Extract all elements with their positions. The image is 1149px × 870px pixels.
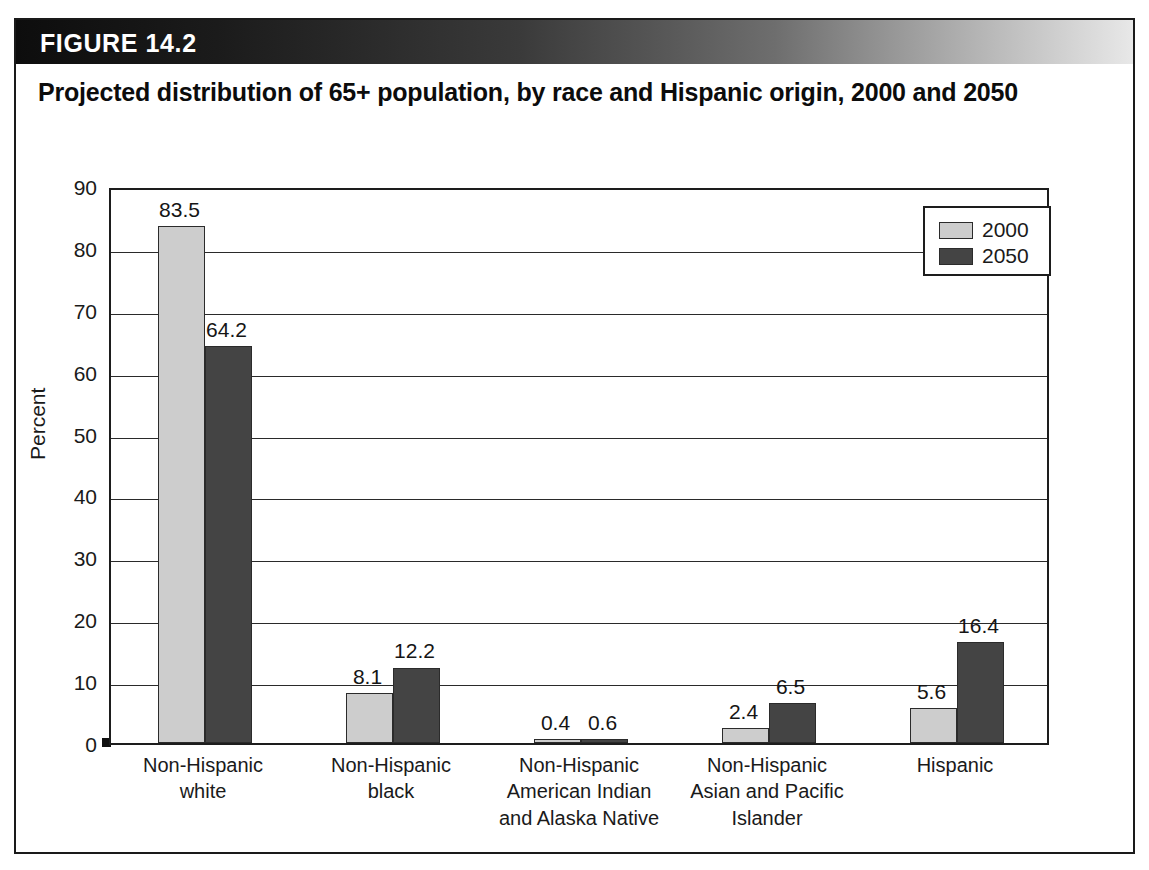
- gridline: [111, 252, 1047, 253]
- bar-value-label: 2.4: [729, 700, 758, 724]
- y-tick-label: 50: [37, 424, 97, 448]
- bar-value-label: 83.5: [159, 198, 200, 222]
- bar-value-label: 12.2: [394, 639, 435, 663]
- bar-2000-2: [346, 693, 393, 743]
- y-tick-label: 80: [37, 238, 97, 262]
- bar-2000-3: [534, 739, 581, 743]
- y-tick-label: 0: [37, 733, 97, 757]
- bar-2050-3: [581, 739, 628, 743]
- category-label-5: Hispanic: [851, 752, 1059, 778]
- y-tick-label: 60: [37, 362, 97, 386]
- category-label-4: Non-Hispanic Asian and Pacific Islander: [663, 752, 871, 831]
- bar-2050-1: [205, 346, 252, 743]
- category-label-1: Non-Hispanic white: [99, 752, 307, 805]
- y-tick-label: 30: [37, 547, 97, 571]
- bar-2000-5: [910, 708, 957, 743]
- legend-label-2050: 2050: [982, 244, 1029, 268]
- legend-swatch-2000: [939, 222, 973, 239]
- bar-value-label: 6.5: [776, 675, 805, 699]
- gridline: [111, 314, 1047, 315]
- bar-2050-2: [393, 668, 440, 744]
- plot-area: 2000 2050: [109, 188, 1049, 745]
- bar-value-label: 8.1: [353, 665, 382, 689]
- bar-2000-4: [722, 728, 769, 743]
- category-label-3: Non-Hispanic American Indian and Alaska …: [475, 752, 683, 831]
- figure-header-band: FIGURE 14.2: [16, 20, 1133, 64]
- bar-value-label: 5.6: [917, 680, 946, 704]
- bar-2050-4: [769, 703, 816, 743]
- figure-title: Projected distribution of 65+ population…: [38, 76, 1038, 108]
- legend-swatch-2050: [939, 248, 973, 265]
- chart-legend[interactable]: 2000 2050: [923, 206, 1051, 276]
- figure-number-label: FIGURE 14.2: [40, 29, 197, 58]
- bar-value-label: 16.4: [958, 614, 999, 638]
- category-label-2: Non-Hispanic black: [287, 752, 495, 805]
- bar-value-label: 64.2: [206, 318, 247, 342]
- chart-area: Percent 0102030405060708090 2000 2050 83…: [16, 160, 1133, 854]
- y-tick-label: 90: [37, 176, 97, 200]
- y-tick-label: 20: [37, 609, 97, 633]
- y-tick-label: 70: [37, 300, 97, 324]
- bar-2050-5: [957, 642, 1004, 743]
- legend-item-2000[interactable]: 2000: [939, 217, 1049, 243]
- bar-value-label: 0.4: [541, 711, 570, 735]
- bar-value-label: 0.6: [588, 711, 617, 735]
- y-tick-label: 10: [37, 671, 97, 695]
- legend-label-2000: 2000: [982, 218, 1029, 242]
- legend-item-2050[interactable]: 2050: [939, 243, 1049, 269]
- bar-2000-1: [158, 226, 205, 743]
- figure-container: FIGURE 14.2 Projected distribution of 65…: [14, 18, 1135, 854]
- y-tick-label: 40: [37, 485, 97, 509]
